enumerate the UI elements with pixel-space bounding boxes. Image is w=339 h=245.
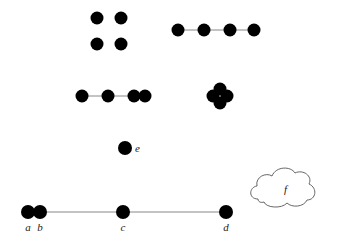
number-line-points: abcd	[21, 205, 233, 233]
cluster-four-dot	[214, 97, 227, 110]
diagram-canvas: e abcd f	[0, 0, 339, 245]
row-with-overlap-dot	[76, 90, 89, 103]
grid-2x2-dot	[91, 38, 104, 51]
grid-2x2-dot	[91, 12, 104, 25]
point-a-dot	[21, 205, 35, 219]
row-with-overlap-dot	[102, 90, 115, 103]
point-c-dot	[116, 205, 130, 219]
cloud-shape	[251, 168, 315, 207]
point-d-dot	[219, 205, 233, 219]
point-groups	[76, 12, 261, 110]
number-line: abcd	[21, 205, 233, 233]
row-evenly-spaced-dot	[248, 24, 261, 37]
single-point-e: e	[118, 141, 140, 155]
row-evenly-spaced-dot	[198, 24, 211, 37]
point-e-label: e	[135, 142, 140, 154]
cloud-f: f	[251, 168, 315, 207]
grid-2x2-dot	[115, 38, 128, 51]
point-b-label: b	[37, 221, 43, 233]
row-with-overlap-dot	[139, 90, 152, 103]
point-e-dot	[118, 141, 132, 155]
connecting-lines	[82, 30, 254, 96]
row-evenly-spaced-dot	[224, 24, 237, 37]
point-b-dot	[33, 205, 47, 219]
point-c-label: c	[121, 221, 126, 233]
row-evenly-spaced-dot	[172, 24, 185, 37]
point-a-label: a	[25, 221, 31, 233]
grid-2x2-dot	[115, 12, 128, 25]
point-d-label: d	[223, 221, 229, 233]
